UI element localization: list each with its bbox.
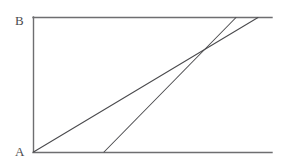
shallow-line-from-a <box>34 18 259 153</box>
diagram-canvas: B A <box>0 0 285 168</box>
figure-container: B A <box>0 0 285 168</box>
vertex-label-b: B <box>15 13 24 28</box>
steep-line-from-baseline <box>104 18 236 153</box>
vertex-label-a: A <box>15 144 25 159</box>
